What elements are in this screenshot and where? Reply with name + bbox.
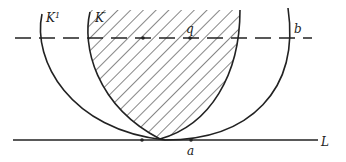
- hatched-region-k-prime: [88, 10, 240, 139]
- label-L: L: [320, 135, 329, 149]
- point-q: [188, 36, 192, 40]
- diagram-canvas: K1 K′ q b a L: [0, 0, 346, 162]
- point-on-b: [141, 36, 145, 40]
- label-q: q: [186, 22, 194, 36]
- label-b: b: [294, 22, 302, 36]
- point-a: [189, 138, 193, 142]
- label-k1: K1: [45, 11, 60, 25]
- label-a: a: [187, 144, 194, 158]
- point-on-L: [140, 138, 144, 142]
